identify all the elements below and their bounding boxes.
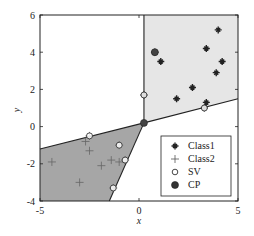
sv-point (110, 185, 116, 191)
sv-point (87, 133, 93, 139)
y-tick-label: -2 (27, 158, 35, 169)
sv-point (122, 157, 128, 163)
legend-label: CP (188, 179, 201, 190)
region-polygon (144, 15, 238, 123)
x-tick-label: -5 (36, 205, 44, 216)
sv-point (116, 142, 122, 148)
y-tick-label: 2 (30, 84, 35, 95)
legend-label: Class2 (188, 153, 215, 164)
y-tick-label: 4 (30, 47, 35, 58)
y-tick-label: 6 (30, 10, 35, 21)
cp-point (140, 119, 147, 126)
y-axis-label: y (11, 107, 22, 113)
sv-point (201, 105, 207, 111)
x-tick-label: 5 (236, 205, 241, 216)
sv-point (141, 92, 147, 98)
legend-label: Class1 (188, 140, 215, 151)
legend: Class1 Class2 SV CP (161, 136, 231, 196)
y-tick-labels: 6 4 2 0 -2 -4 (27, 10, 35, 207)
y-tick-label: -4 (27, 196, 35, 207)
legend-label: SV (188, 166, 202, 177)
cp-point (151, 49, 158, 56)
y-tick-label: 0 (30, 121, 35, 132)
x-axis-label: x (136, 215, 142, 226)
scatter-chart: -5 0 5 6 4 2 0 -2 -4 x y Class1 Class2 S… (0, 0, 254, 236)
filled-circle-marker-icon (172, 182, 179, 189)
